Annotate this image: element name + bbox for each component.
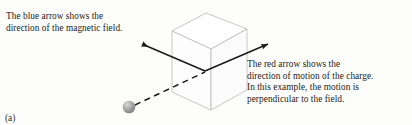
magnetic-field-caption-line-1: The blue arrow shows the — [6, 11, 122, 23]
charge-motion-caption-line-2: direction of motion of the charge. — [247, 71, 373, 83]
figure-label: (a) — [5, 113, 15, 124]
physics-figure-panel: The blue arrow shows the direction of th… — [0, 0, 412, 125]
magnetic-field-caption-line-2: direction of the magnetic field. — [6, 23, 122, 35]
charge-motion-caption-line-1: The red arrow shows the — [247, 59, 373, 71]
magnetic-field-caption: The blue arrow shows the direction of th… — [6, 11, 122, 34]
charge-motion-caption: The red arrow shows the direction of mot… — [247, 59, 373, 105]
charge-motion-caption-line-3: In this example, the motion is — [247, 82, 373, 94]
charge-motion-caption-line-4: perpendicular to the field. — [247, 94, 373, 106]
charge-sphere — [123, 101, 136, 114]
